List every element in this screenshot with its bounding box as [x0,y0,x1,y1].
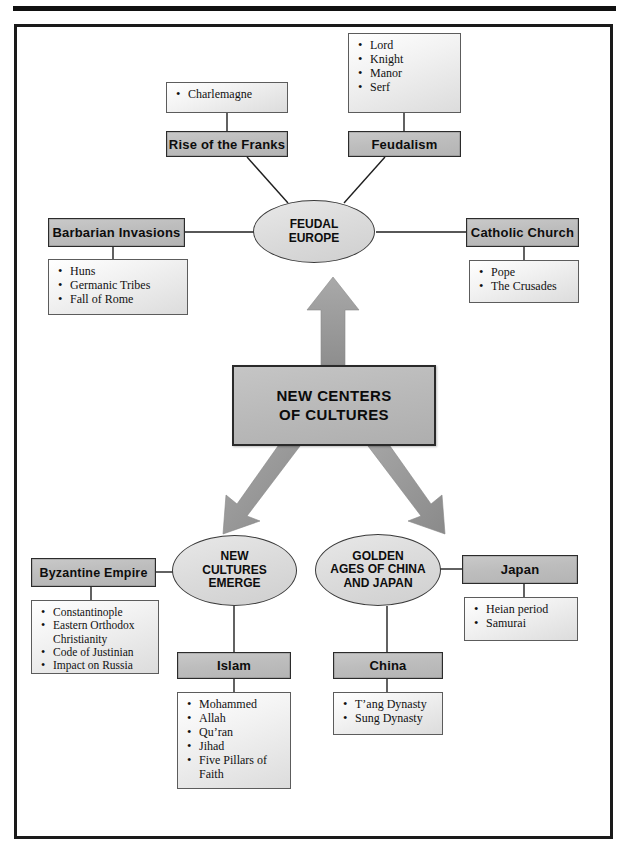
list-item: Jihad [187,740,267,754]
list-box-byzantine-empire: Constantinople Eastern Orthodox Christia… [31,600,159,674]
center-node-new-centers-of-cultures[interactable]: NEW CENTERS OF CULTURES [232,365,436,446]
node-byzantine-empire[interactable]: Byzantine Empire [31,558,156,587]
list-item: Eastern Orthodox Christianity [41,619,134,646]
top-rule [13,6,616,11]
list-box-rise-of-the-franks: Charlemagne [166,82,288,113]
list-item: Manor [358,67,403,81]
list-item: Mohammed [187,698,267,712]
list-item: Huns [58,265,150,279]
node-barbarian-invasions[interactable]: Barbarian Invasions [48,218,185,247]
list-item: Pope [479,266,557,280]
list-item: Knight [358,53,403,67]
hub-new-cultures-emerge[interactable]: NEW CULTURES EMERGE [172,535,297,606]
list-item: Charlemagne [176,88,252,102]
list-item: Five Pillars of Faith [187,754,267,782]
list-item: Sung Dynasty [343,712,427,726]
node-china[interactable]: China [333,652,443,679]
concept-map-page: Charlemagne Rise of the Franks Lord Knig… [0,0,629,857]
list-box-catholic-church: Pope The Crusades [469,260,579,303]
node-japan[interactable]: Japan [462,555,578,584]
node-rise-of-the-franks[interactable]: Rise of the Franks [166,131,288,157]
list-item: Fall of Rome [58,293,150,307]
list-item: Impact on Russia [41,659,134,672]
list-item: T’ang Dynasty [343,698,427,712]
list-item: Qu’ran [187,726,267,740]
list-item: Lord [358,39,403,53]
list-item: Heian period [474,603,548,617]
hub-golden-ages-of-china-and-japan[interactable]: GOLDEN AGES OF CHINA AND JAPAN [315,534,441,606]
list-item: Samurai [474,617,548,631]
list-box-china: T’ang Dynasty Sung Dynasty [333,692,443,735]
list-item: Allah [187,712,267,726]
list-box-barbarian-invasions: Huns Germanic Tribes Fall of Rome [48,259,188,315]
node-feudalism[interactable]: Feudalism [348,131,461,157]
node-islam[interactable]: Islam [177,652,291,679]
list-box-japan: Heian period Samurai [464,597,578,641]
list-item: Serf [358,81,403,95]
list-item: Germanic Tribes [58,279,150,293]
list-item: The Crusades [479,280,557,294]
hub-feudal-europe[interactable]: FEUDAL EUROPE [253,200,375,263]
list-box-feudalism: Lord Knight Manor Serf [348,33,461,113]
list-item: Code of Justinian [41,646,134,659]
list-box-islam: Mohammed Allah Qu’ran Jihad Five Pillars… [177,692,291,789]
list-item: Constantinople [41,606,134,619]
node-catholic-church[interactable]: Catholic Church [466,218,579,247]
